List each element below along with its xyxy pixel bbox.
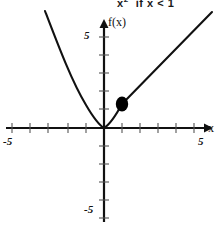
linear-branch xyxy=(122,12,212,104)
x-axis-tick-label-right: 5 xyxy=(198,136,204,147)
plot-canvas xyxy=(0,0,224,230)
y-axis-tick-label-top: 5 xyxy=(84,30,90,41)
y-axis-label: f(x) xyxy=(108,16,126,28)
x-axis-label: x xyxy=(208,122,214,134)
axis-lines xyxy=(6,19,213,222)
x-axis-tick-label-left: -5 xyxy=(3,136,12,147)
closed-endpoint-dot xyxy=(116,97,128,112)
function-graph-figure: x2 if x < 1 xyxy=(0,0,224,230)
y-axis-tick-label-bottom: -5 xyxy=(84,204,93,215)
